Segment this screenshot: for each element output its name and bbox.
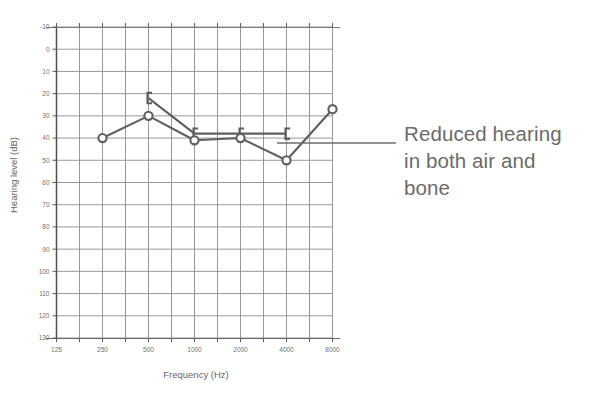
x-tick-label: 8000 <box>325 346 340 353</box>
x-tick-label: 500 <box>143 346 154 353</box>
data-point-air <box>144 112 152 120</box>
y-tick-label: 100 <box>39 268 50 275</box>
y-tick-label: 80 <box>42 223 50 230</box>
y-tick-label: -10 <box>40 23 50 30</box>
x-axis-label: Frequency (Hz) <box>163 369 228 380</box>
annotation-line-1: Reduced hearing <box>404 120 594 147</box>
data-point-air <box>328 105 336 113</box>
data-point-air <box>236 134 244 142</box>
y-tick-label: 110 <box>39 290 50 297</box>
y-tick-label: 40 <box>42 134 50 141</box>
y-tick-label: 20 <box>42 90 50 97</box>
y-tick-label: 60 <box>42 179 50 186</box>
data-point-air <box>98 134 106 142</box>
y-tick-label: 70 <box>42 201 50 208</box>
y-tick-label: 0 <box>46 46 50 53</box>
y-tick-label: 30 <box>42 112 50 119</box>
x-tick-label: 250 <box>97 346 108 353</box>
x-tick-label: 1000 <box>187 346 202 353</box>
y-tick-label: 10 <box>42 68 50 75</box>
y-tick-label: 50 <box>42 157 50 164</box>
x-tick-label: 4000 <box>279 346 294 353</box>
y-tick-label: 120 <box>39 312 50 319</box>
annotation-text: Reduced hearing in both air and bone <box>404 120 594 201</box>
x-tick-label: 2000 <box>233 346 248 353</box>
y-axis-label: Hearing level (dB) <box>8 137 19 213</box>
data-point-air <box>282 156 290 164</box>
data-point-air <box>190 136 198 144</box>
annotation-line-3: bone <box>404 174 594 201</box>
y-tick-label: 90 <box>42 246 50 253</box>
y-tick-label: 130 <box>39 334 50 341</box>
x-tick-label: 125 <box>51 346 62 353</box>
annotation-line-2: in both air and <box>404 147 594 174</box>
